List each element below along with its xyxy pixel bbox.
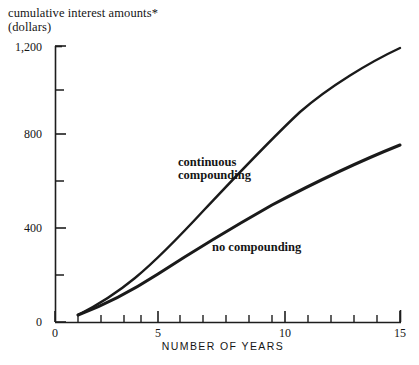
y-tick-label-400: 400 xyxy=(0,221,42,236)
x-tick-label-15: 15 xyxy=(385,326,415,341)
interest-amounts-chart: cumulative interest amounts* (dollars) xyxy=(0,0,419,365)
x-tick-label-5: 5 xyxy=(143,326,173,341)
series-label-line-2: compounding xyxy=(178,169,251,182)
y-tick-label-0: 0 xyxy=(0,315,42,330)
y-tick-label-800: 800 xyxy=(0,127,42,142)
chart-plot-area xyxy=(0,0,419,365)
x-axis-title: NUMBER OF YEARS xyxy=(98,340,348,352)
series-label-continuous-compounding: continuous compounding xyxy=(178,156,251,182)
series-label-no-compounding: no compounding xyxy=(212,241,301,254)
y-tick-label-1200: 1,200 xyxy=(0,40,42,55)
x-tick-label-10: 10 xyxy=(270,326,300,341)
x-tick-label-0: 0 xyxy=(40,326,70,341)
